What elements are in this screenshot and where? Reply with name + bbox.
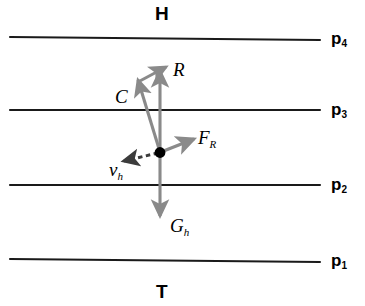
vector-label-C-base: C	[115, 86, 128, 107]
vector-group	[124, 67, 194, 216]
vector-label-vh-sub: h	[117, 170, 123, 182]
plane-label-p2-base: p	[331, 175, 341, 194]
region-label-bottom: T	[156, 282, 168, 301]
diagram-canvas	[0, 0, 365, 306]
plane-line-p4	[10, 37, 320, 40]
plane-label-p4-sub: 4	[341, 38, 347, 49]
plane-label-p3-sub: 3	[341, 109, 347, 120]
vector-label-R-base: R	[173, 59, 185, 80]
plane-label-p3-base: p	[331, 100, 341, 119]
vector-label-Gh: Gh	[170, 216, 189, 235]
region-label-top: H	[155, 4, 169, 23]
vector-label-vh: vh	[109, 160, 123, 179]
plane-label-p2: p2	[331, 176, 347, 193]
plane-label-p4: p4	[331, 30, 347, 47]
plane-label-p4-base: p	[331, 29, 341, 48]
vector-R-shaft	[138, 67, 166, 82]
vector-label-Gh-sub: h	[184, 226, 190, 238]
vector-FR-shaft	[161, 139, 194, 152]
vector-C-shaft	[138, 80, 160, 152]
vector-label-Gh-base: G	[170, 215, 184, 236]
plane-line-p1	[10, 259, 320, 262]
force-vector-diagram: H T p4 p3 p2 p1 R C FR vh Gh	[0, 0, 365, 306]
plane-label-p1-base: p	[331, 251, 341, 270]
vector-vh-shaft	[124, 153, 158, 161]
vector-label-FR-base: F	[198, 127, 210, 148]
vector-label-FR: FR	[198, 128, 216, 147]
plane-label-p1-sub: 1	[341, 260, 347, 271]
vector-label-FR-sub: R	[210, 138, 217, 150]
plane-label-p2-sub: 2	[341, 184, 347, 195]
plane-label-p1: p1	[331, 252, 347, 269]
vector-label-R: R	[173, 60, 185, 79]
plane-label-p3: p3	[331, 101, 347, 118]
vector-label-C: C	[115, 87, 128, 106]
origin-point	[155, 147, 166, 158]
